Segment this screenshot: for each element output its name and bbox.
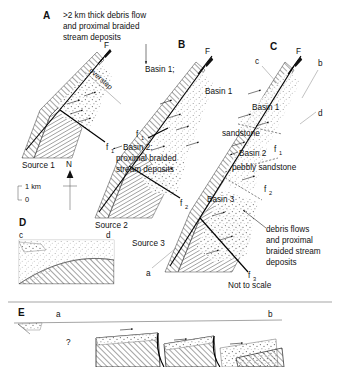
panel-c-basin-2-label: Basin 2 xyxy=(239,149,267,158)
diagram-canvas: A >2 km thick debris flow and proximal b… xyxy=(0,0,340,367)
panel-a-annotation-line-3: stream deposits xyxy=(63,33,121,42)
panel-c-debris-line-1: debris flows xyxy=(266,225,309,234)
panel-e-letter: E xyxy=(18,307,25,318)
geological-block-diagram-figure: A >2 km thick debris flow and proximal b… xyxy=(0,0,340,367)
panel-a-letter: A xyxy=(43,10,50,21)
panel-c-basin-3-label: Basin 3 xyxy=(207,195,235,204)
panel-c-section-a-label: a xyxy=(146,269,151,278)
panel-d-right-end-label: d xyxy=(106,231,111,240)
panel-b-basin-2-line-1: Basin 2; xyxy=(123,143,153,152)
panel-e-left-end-label: a xyxy=(56,310,61,319)
scale-bar-top-label: 1 km xyxy=(25,182,41,191)
panel-c-debris-line-3: braided stream xyxy=(266,247,321,256)
panel-c-fault-f1-subscript: 1 xyxy=(279,150,282,156)
panel-c-master-fault-label: F xyxy=(296,47,301,56)
panel-a-master-fault-label: F xyxy=(104,41,109,50)
panel-a-annotation-line-2: and proximal braided xyxy=(63,22,140,31)
panel-a-annotation-line-1: >2 km thick debris flow xyxy=(63,11,146,20)
panel-c-section-b-label: b xyxy=(318,59,323,68)
panel-c-source-label: Source 3 xyxy=(132,239,165,248)
panel-b-basin-2-line-2: proximal braided xyxy=(116,154,177,163)
panel-c-debris-line-4: deposits xyxy=(266,258,297,267)
panel-b-letter: B xyxy=(178,39,185,50)
panel-a-basin-label: Basin 1; xyxy=(145,65,175,74)
panel-c-pebbly-sandstone-label: pebbly sandstone xyxy=(232,163,297,172)
panel-c-fault-f2-subscript: 2 xyxy=(269,190,272,196)
panel-b-fault-f1-subscript: 1 xyxy=(141,135,144,141)
scale-bar-bottom-label: 0 xyxy=(25,195,29,204)
panel-c-sandstone-label: sandstone xyxy=(222,129,260,138)
panel-a-source-label: Source 1 xyxy=(22,161,55,170)
panel-d-left-end-label: c xyxy=(19,231,23,240)
panel-c-basin-1-label: Basin 1 xyxy=(252,103,280,112)
panel-d-section-content xyxy=(19,240,114,284)
panel-e-right-end-label: b xyxy=(268,310,273,319)
north-arrow-label: N xyxy=(66,160,72,169)
panel-c-debris-line-2: and proximal xyxy=(266,236,313,245)
panel-b-fault-f2-subscript: 2 xyxy=(185,204,188,210)
panel-b-basin-2-line-3: stream deposits xyxy=(116,165,174,174)
panel-b-basin-1-label: Basin 1 xyxy=(205,87,233,96)
panel-c-not-to-scale-label: Not to scale xyxy=(228,281,272,290)
panel-b-source-label: Source 2 xyxy=(95,221,128,230)
panel-e-query-label: ? xyxy=(66,338,71,347)
panel-c-section-c-label: c xyxy=(255,57,259,66)
panel-d-letter: D xyxy=(19,217,26,228)
panel-c-letter: C xyxy=(270,41,277,52)
panel-b-master-fault-label: F xyxy=(205,47,210,56)
panel-c-section-d-label: d xyxy=(318,109,323,118)
